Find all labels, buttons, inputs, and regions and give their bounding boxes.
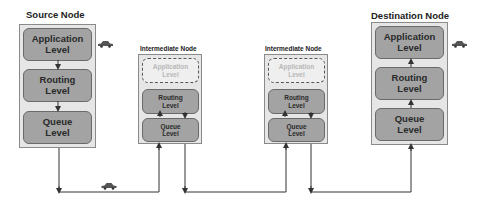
car-icon	[451, 40, 468, 48]
connection-lines	[0, 0, 484, 207]
car-icon	[100, 182, 118, 190]
car-icon	[97, 40, 114, 48]
